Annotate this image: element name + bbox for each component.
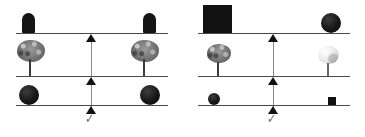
unbalanced-scale-panel: ✓ (182, 0, 365, 137)
balance-scale-figure: ✓ ✓ (0, 0, 365, 137)
upper-connector-post (91, 42, 92, 77)
top-right-object-sphere (321, 13, 341, 33)
top-fulcrum-icon (268, 34, 278, 42)
bottom-left-object-sphere (208, 93, 220, 105)
middle-right-object-tree (128, 40, 162, 76)
lower-connector-post (91, 85, 92, 107)
bottom-right-object-cube (328, 97, 336, 105)
tree-trunk (29, 59, 31, 76)
lower-connector-post (273, 85, 274, 107)
check-icon: ✓ (267, 112, 276, 125)
bottom-right-object-sphere (140, 85, 160, 105)
upper-connector-post (273, 42, 274, 77)
middle-left-object-tree (14, 40, 48, 76)
middle-left-object-tree (204, 44, 234, 76)
tree-trunk (143, 59, 145, 76)
balanced-scale-panel: ✓ (0, 0, 183, 137)
check-icon: ✓ (85, 112, 94, 125)
top-fulcrum-icon (86, 34, 96, 42)
tree-trunk (217, 62, 219, 76)
top-right-object-dome (143, 13, 156, 33)
middle-right-object-tree (314, 46, 342, 76)
tree-canopy (318, 46, 339, 64)
tree-canopy (17, 40, 45, 62)
middle-fulcrum-icon (268, 77, 278, 85)
top-left-object-cube (203, 5, 232, 33)
middle-fulcrum-icon (86, 77, 96, 85)
tree-canopy (207, 44, 231, 63)
top-left-object-dome (22, 13, 35, 33)
bottom-left-object-sphere (19, 85, 39, 105)
tree-trunk (327, 63, 329, 76)
tree-canopy (131, 40, 159, 62)
